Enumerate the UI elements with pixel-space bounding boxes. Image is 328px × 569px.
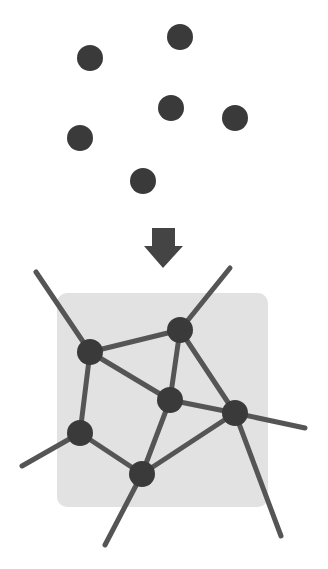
scatter-point bbox=[158, 95, 184, 121]
scatter-point bbox=[167, 24, 193, 50]
scatter-point bbox=[67, 125, 93, 151]
network-node bbox=[129, 461, 155, 487]
network-node bbox=[77, 339, 103, 365]
scatter-point bbox=[130, 168, 156, 194]
network-node bbox=[167, 317, 193, 343]
scatter-point bbox=[222, 105, 248, 131]
network-node bbox=[67, 420, 93, 446]
points-to-network-diagram bbox=[0, 0, 328, 569]
scatter-point bbox=[77, 45, 103, 71]
scattered-points bbox=[67, 24, 248, 194]
down-arrow-icon bbox=[144, 228, 183, 268]
network-node bbox=[222, 400, 248, 426]
arrow-down-icon bbox=[144, 228, 183, 268]
network-node bbox=[157, 387, 183, 413]
